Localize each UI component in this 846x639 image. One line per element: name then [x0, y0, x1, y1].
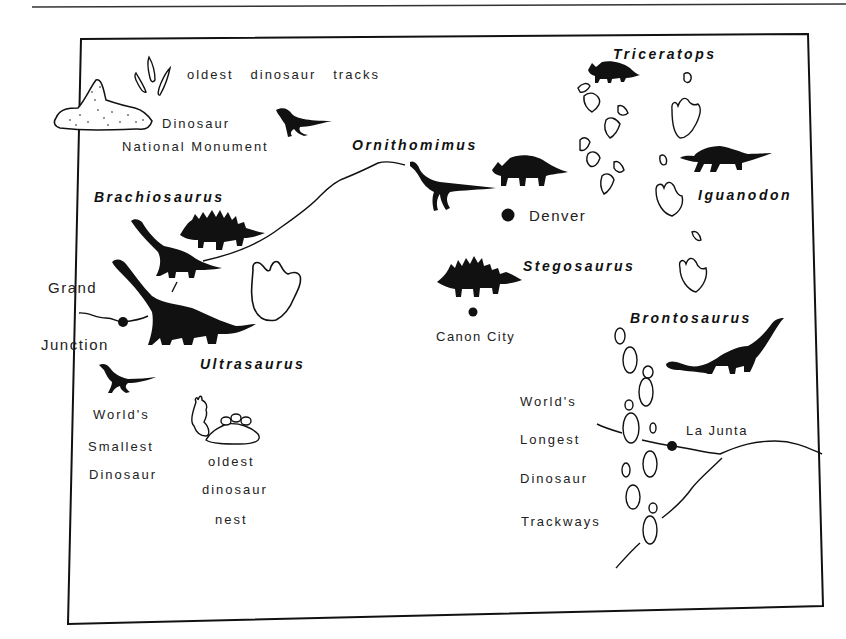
label-monument-2: National Monument — [122, 140, 269, 153]
oldest-tracks-icon — [135, 57, 170, 95]
brontosaurus-silhouette — [666, 318, 784, 374]
river-south-platte — [203, 162, 405, 261]
label-trackways-2: Longest — [520, 433, 580, 446]
label-junction: Junction — [41, 337, 109, 352]
label-denver: Denver — [529, 208, 586, 223]
footprint-large — [252, 262, 301, 321]
ornithomimus-silhouette — [410, 161, 496, 211]
label-brachiosaurus: Brachiosaurus — [94, 190, 225, 204]
label-grand: Grand — [48, 280, 97, 295]
triceratops-silhouette-small — [588, 61, 640, 83]
label-trackways-1: World's — [520, 395, 577, 408]
smallest-dinosaur-silhouette — [99, 364, 156, 393]
label-smallest-2: Smallest — [88, 440, 154, 453]
label-nest-3: nest — [215, 513, 248, 526]
label-iguanodon: Iguanodon — [698, 188, 792, 202]
page-top-rule — [32, 4, 846, 7]
river-purgatoire — [616, 458, 722, 568]
ultrasaurus-silhouette — [112, 260, 256, 345]
label-la-junta: La Junta — [686, 424, 748, 437]
label-oldest-tracks: oldest dinosaur tracks — [187, 68, 380, 81]
label-nest-1: oldest — [208, 455, 255, 468]
river-connector — [172, 282, 177, 292]
label-smallest-3: Dinosaur — [89, 468, 157, 481]
label-nest-2: dinosaur — [202, 483, 268, 496]
la-junta-dot — [667, 441, 677, 451]
label-triceratops: Triceratops — [613, 47, 717, 61]
denver-dot — [502, 209, 515, 222]
label-trackways-3: Dinosaur — [520, 472, 588, 485]
label-ultrasaurus: Ultrasaurus — [200, 357, 305, 371]
label-stegosaurus: Stegosaurus — [523, 259, 635, 273]
nest-icon — [192, 396, 259, 444]
label-ornithomimus: Ornithomimus — [352, 138, 478, 152]
iguanodon-silhouette — [680, 146, 772, 172]
label-canon-city: Canon City — [436, 330, 515, 343]
grand-junction-dot — [118, 317, 128, 327]
triceratops-silhouette — [492, 155, 568, 186]
stegosaurus-silhouette — [437, 256, 522, 297]
river-colorado — [79, 313, 148, 322]
monument-icon — [54, 80, 152, 130]
canon-city-dot — [469, 308, 478, 317]
label-brontosaurus: Brontosaurus — [630, 311, 752, 325]
iguanodon-trackway — [656, 73, 707, 292]
triceratops-trackway — [578, 84, 628, 194]
label-monument-1: Dinosaur — [162, 117, 230, 130]
brontosaurus-trackway — [615, 328, 657, 544]
theropod-silhouette — [276, 108, 332, 137]
label-smallest-1: World's — [93, 408, 150, 421]
label-trackways-4: Trackways — [521, 515, 601, 528]
